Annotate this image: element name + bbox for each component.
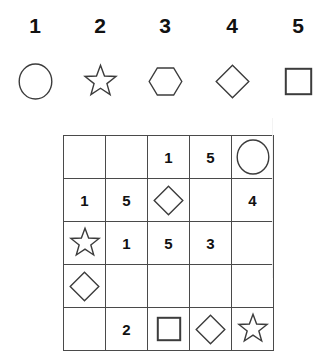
grid-row: 153 (64, 222, 274, 265)
star-icon (68, 226, 102, 260)
grid-cell-content: 1 (148, 136, 189, 178)
grid-cell-number: 5 (164, 236, 172, 251)
square-icon (155, 315, 183, 343)
grid-cell-r3c5[interactable] (232, 222, 274, 265)
grid-cell-content (190, 265, 231, 307)
grid-cell-content: 5 (148, 222, 189, 264)
grid-cell-content (232, 136, 273, 178)
grid-cell-content: 1 (64, 179, 105, 221)
grid-cell-content (64, 136, 105, 178)
grid-cell-content (106, 265, 147, 307)
grid-cell-content: 1 (106, 222, 147, 264)
grid-cell-r4c1[interactable] (64, 265, 106, 308)
grid-cell-r3c1[interactable] (64, 222, 106, 265)
circle-icon (17, 63, 54, 100)
legend-shape-hexagon (134, 58, 196, 104)
hexagon-icon (147, 63, 184, 100)
grid-cell-r2c1[interactable]: 1 (64, 179, 106, 222)
grid-cell-content (64, 308, 105, 350)
grid-cell-number: 2 (122, 322, 130, 337)
legend-shape-circle (4, 58, 66, 104)
grid-cell-r2c4[interactable] (190, 179, 232, 222)
legend-number: 4 (201, 13, 263, 39)
diamond-icon (152, 184, 185, 217)
legend-number: 2 (69, 13, 131, 39)
grid-cell-content (232, 265, 273, 307)
grid-cell-content (64, 265, 105, 307)
grid-cell-number: 1 (80, 193, 88, 208)
diamond-icon (214, 63, 251, 100)
grid-cell-content: 2 (106, 308, 147, 350)
grid-cell-r4c5[interactable] (232, 265, 274, 308)
grid-cell-r1c2[interactable] (106, 136, 148, 179)
grid-cell-r5c1[interactable] (64, 308, 106, 351)
grid-cell-content (148, 308, 189, 350)
grid-row: 15 (64, 136, 274, 179)
grid-cell-r5c5[interactable] (232, 308, 274, 351)
grid-cell-r4c3[interactable] (148, 265, 190, 308)
grid-cell-r1c1[interactable] (64, 136, 106, 179)
grid-cell-r5c2[interactable]: 2 (106, 308, 148, 351)
grid-cell-number: 1 (122, 236, 130, 251)
star-icon (82, 63, 119, 100)
grid-cell-r2c3[interactable] (148, 179, 190, 222)
grid-cell-content (232, 308, 273, 350)
grid-cell-content (190, 308, 231, 350)
grid-cell-number: 5 (122, 193, 130, 208)
grid-cell-content: 3 (190, 222, 231, 264)
puzzle-grid-container: 151541532 (63, 135, 268, 345)
grid-cell-r4c4[interactable] (190, 265, 232, 308)
grid-cell-content (148, 179, 189, 221)
legend-item-star: 2 (69, 0, 131, 118)
grid-cell-r1c5[interactable] (232, 136, 274, 179)
grid-cell-content (232, 222, 273, 264)
legend-shape-square (267, 58, 329, 104)
circle-icon (235, 139, 271, 175)
legend-number: 5 (267, 13, 329, 39)
legend-shape-diamond (201, 58, 263, 104)
legend-item-diamond: 4 (201, 0, 263, 118)
grid-cell-r2c2[interactable]: 5 (106, 179, 148, 222)
grid-cell-content (106, 136, 147, 178)
legend-item-hexagon: 3 (134, 0, 196, 118)
diamond-icon (68, 270, 101, 303)
grid-cell-number: 5 (206, 150, 214, 165)
grid-cell-number: 3 (206, 236, 214, 251)
shape-number-legend: 12345 (0, 0, 329, 118)
grid-cell-r3c3[interactable]: 5 (148, 222, 190, 265)
legend-item-circle: 1 (4, 0, 66, 118)
scan-artifact (272, 118, 273, 278)
grid-row: 154 (64, 179, 274, 222)
grid-cell-r5c3[interactable] (148, 308, 190, 351)
square-icon (283, 66, 314, 97)
grid-cell-content: 4 (232, 179, 273, 221)
puzzle-grid: 151541532 (63, 135, 274, 351)
star-icon (236, 312, 270, 346)
legend-item-square: 5 (267, 0, 329, 118)
grid-cell-content: 5 (106, 179, 147, 221)
grid-row: 2 (64, 308, 274, 351)
legend-number: 3 (134, 13, 196, 39)
diamond-icon (194, 313, 227, 346)
grid-cell-content (190, 179, 231, 221)
grid-cell-r3c2[interactable]: 1 (106, 222, 148, 265)
grid-cell-r3c4[interactable]: 3 (190, 222, 232, 265)
legend-number: 1 (4, 13, 66, 39)
grid-cell-r1c3[interactable]: 1 (148, 136, 190, 179)
grid-cell-content: 5 (190, 136, 231, 178)
grid-cell-content (64, 222, 105, 264)
grid-cell-content (148, 265, 189, 307)
grid-cell-number: 4 (248, 193, 256, 208)
grid-cell-r2c5[interactable]: 4 (232, 179, 274, 222)
legend-shape-star (69, 58, 131, 104)
grid-cell-r1c4[interactable]: 5 (190, 136, 232, 179)
grid-row (64, 265, 274, 308)
grid-cell-number: 1 (164, 150, 172, 165)
grid-cell-r4c2[interactable] (106, 265, 148, 308)
grid-cell-r5c4[interactable] (190, 308, 232, 351)
